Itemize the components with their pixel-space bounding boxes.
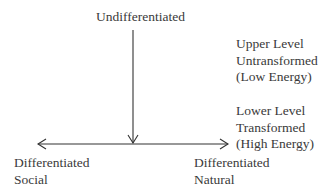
left-label-line-2: Social: [14, 172, 89, 189]
upper-level-label: Upper Level Untransformed (Low Energy): [236, 36, 318, 86]
left-label-line-1: Differentiated: [14, 155, 89, 172]
lower-level-label: Lower Level Transformed (High Energy): [236, 103, 314, 153]
right-label-line-2: Natural: [194, 172, 269, 189]
lower-level-line-3: (High Energy): [236, 136, 314, 153]
upper-level-line-1: Upper Level: [236, 36, 318, 53]
lower-level-line-1: Lower Level: [236, 103, 314, 120]
upper-level-line-2: Untransformed: [236, 53, 318, 70]
differentiated-social-label: Differentiated Social: [14, 155, 89, 188]
lower-level-line-2: Transformed: [236, 120, 314, 137]
upper-level-line-3: (Low Energy): [236, 69, 318, 86]
undifferentiated-label: Undifferentiated: [96, 9, 185, 26]
differentiated-natural-label: Differentiated Natural: [194, 155, 269, 188]
right-label-line-1: Differentiated: [194, 155, 269, 172]
